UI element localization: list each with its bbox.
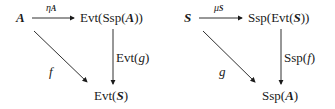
arrow-f	[34, 31, 87, 82]
label-f: f	[49, 65, 53, 78]
node-ssp-A: Ssp(A)	[262, 89, 298, 102]
label-mu-S: μS	[214, 3, 223, 13]
label-ssp-f: Ssp(f)	[284, 51, 315, 64]
label-evt-g: Evt(g)	[116, 51, 149, 64]
node-ssp-evt-S: Ssp(Evt(S))	[248, 11, 309, 24]
label-g: g	[219, 65, 226, 78]
arrow-g	[203, 31, 255, 82]
node-evt-ssp-A: Evt(Ssp(A))	[80, 11, 143, 24]
node-S: S	[184, 11, 191, 24]
node-A: A	[16, 11, 25, 24]
node-evt-S: Evt(S)	[94, 89, 128, 102]
label-eta-A: ηA	[46, 3, 56, 13]
